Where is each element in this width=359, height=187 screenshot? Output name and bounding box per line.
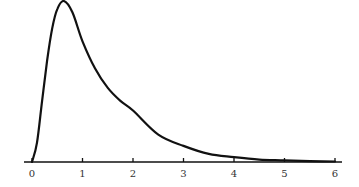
density-curve [32, 1, 335, 162]
x-tick-label: 5 [281, 168, 287, 179]
density-chart: 0123456 [0, 0, 359, 187]
x-tick-label: 4 [231, 168, 237, 179]
x-tick-label: 6 [332, 168, 338, 179]
x-tick-label: 0 [29, 168, 35, 179]
x-tick-label: 3 [180, 168, 186, 179]
x-tick-label: 2 [130, 168, 136, 179]
x-tick-label: 1 [79, 168, 85, 179]
